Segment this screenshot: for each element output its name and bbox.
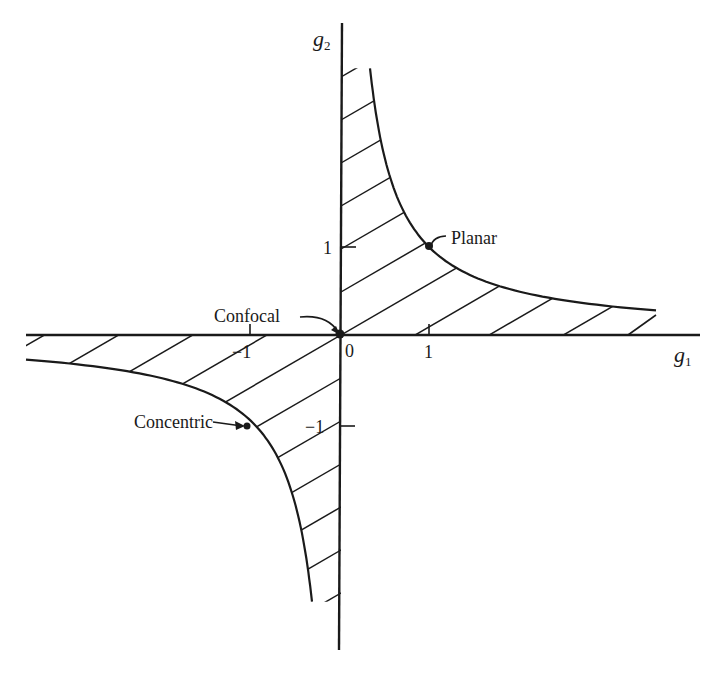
- hatch-line: [0, 157, 722, 576]
- hatch-line: [0, 286, 722, 684]
- hatch-line: [0, 0, 722, 275]
- hatch-line: [0, 0, 722, 103]
- hatch-line: [0, 0, 722, 404]
- hatch-line: [0, 200, 722, 619]
- hyperbola-lower-branch: [26, 360, 312, 602]
- hatch-line: [0, 0, 722, 146]
- hatch-line: [0, 673, 722, 684]
- hatch-lower-region: [0, 0, 722, 684]
- hatch-line: [0, 0, 722, 189]
- hyperbola-upper-branch: [370, 68, 656, 310]
- hatch-line: [0, 0, 722, 17]
- concentric-label: Concentric: [134, 412, 213, 432]
- hatch-line: [0, 0, 722, 189]
- hatch-line: [0, 0, 722, 103]
- hatch-line: [0, 200, 722, 619]
- hatch-line: [0, 630, 722, 684]
- hatch-line: [0, 458, 722, 684]
- hatch-line: [0, 0, 722, 146]
- hatch-line: [0, 501, 722, 684]
- hatch-line: [0, 0, 722, 275]
- hatch-line: [0, 0, 722, 232]
- tick-label-g2-neg1: −1: [305, 417, 324, 437]
- hatch-line: [0, 0, 722, 17]
- hatch-line: [0, 329, 722, 684]
- stability-diagram: 0 1 −1 1 −1 g2 g1 Planar Confocal Concen…: [0, 0, 722, 684]
- hatch-line: [0, 544, 722, 684]
- confocal-label: Confocal: [214, 306, 280, 326]
- tick-label-g2-pos1: 1: [323, 238, 332, 258]
- hatch-line: [0, 415, 722, 684]
- hatch-line: [0, 458, 722, 684]
- hatch-upper-region: [0, 0, 722, 684]
- hatch-line: [0, 286, 722, 684]
- hatch-line: [0, 114, 722, 533]
- hatch-line: [0, 673, 722, 684]
- hatch-line: [0, 0, 722, 60]
- hatch-line: [0, 0, 722, 318]
- hatch-line: [0, 329, 722, 684]
- tick-label-g1-pos1: 1: [424, 342, 433, 362]
- axis-label-g1: g1: [674, 342, 692, 369]
- hatch-line: [0, 0, 722, 318]
- hatch-line: [0, 0, 722, 60]
- hatch-line: [0, 0, 722, 232]
- concentric-arrowhead-icon: [235, 421, 245, 430]
- hatch-line: [0, 71, 722, 490]
- hatch-line: [0, 587, 722, 684]
- hatch-line: [0, 28, 722, 447]
- hatch-line: [0, 372, 722, 684]
- hatch-line: [0, 415, 722, 684]
- hatch-line: [0, 372, 722, 684]
- hatch-line: [0, 544, 722, 684]
- hatch-line: [0, 630, 722, 684]
- axis-label-g2: g2: [313, 26, 331, 53]
- upper-right-closing-edge: [628, 315, 656, 335]
- hatch-line: [0, 157, 722, 576]
- planar-label: Planar: [451, 228, 497, 248]
- tick-label-g1-neg1: −1: [232, 342, 251, 362]
- hatch-line: [0, 501, 722, 684]
- planar-arrow: [431, 236, 446, 246]
- tick-label-origin: 0: [345, 341, 354, 361]
- hatch-line: [0, 0, 722, 404]
- hatch-line: [0, 587, 722, 684]
